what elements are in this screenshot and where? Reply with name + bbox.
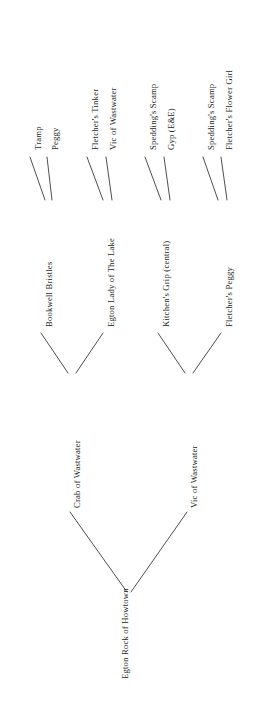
node-gen4-4[interactable]: Spedding's Scamp — [149, 84, 158, 150]
edge-gen4-gen3-4 — [145, 157, 161, 200]
node-gen4-5[interactable]: Gyp (E&E) — [167, 108, 176, 150]
edge-gen4-gen3-3 — [106, 157, 112, 200]
edges-gen3-to-gen2 — [41, 333, 221, 373]
node-gen4-1[interactable]: Peggy — [51, 127, 60, 150]
edge-gen4-gen3-6 — [203, 157, 218, 200]
node-gen3-1[interactable]: Egton Lady of The Lake — [107, 238, 116, 327]
edge-gen3-gen2-0 — [41, 333, 68, 373]
edges-gen4-to-gen3 — [30, 157, 227, 200]
node-gen2-1[interactable]: Vic of Wastwater — [190, 445, 199, 508]
edge-gen3-gen2-1 — [76, 333, 103, 373]
node-gen4-2[interactable]: Fletcher's Tinker — [91, 89, 100, 150]
edge-gen2-root-1 — [131, 512, 187, 592]
edge-gen4-gen3-1 — [47, 157, 52, 200]
node-gen2-0[interactable]: Crab of Wastwater — [73, 440, 82, 508]
edge-gen4-gen3-7 — [221, 157, 227, 200]
edges-gen2-to-root — [70, 512, 187, 592]
node-gen4-0[interactable]: Tramp — [34, 126, 43, 150]
edge-gen4-gen3-5 — [164, 157, 170, 200]
edge-gen3-gen2-2 — [158, 333, 185, 373]
node-gen4-7[interactable]: Fletcher's Flower Girl — [225, 70, 234, 150]
node-gen3-2[interactable]: Kitchen's Grip (central) — [162, 241, 171, 327]
node-gen3-3[interactable]: Fletcher's Peggy — [225, 267, 234, 327]
pedigree-diagram: Tramp Peggy Fletcher's Tinker Vic of Was… — [0, 0, 263, 720]
node-gen4-6[interactable]: Spedding's Scamp — [207, 84, 216, 150]
edge-gen3-gen2-3 — [193, 333, 221, 373]
edge-gen2-root-0 — [70, 512, 127, 592]
node-gen3-0[interactable]: Bookwell Bristles — [45, 262, 54, 327]
node-root[interactable]: Egton Rock of Howtown — [121, 588, 130, 679]
node-gen4-3[interactable]: Vic of Wastwater — [109, 87, 118, 150]
edge-gen4-gen3-0 — [30, 157, 45, 200]
edge-gen4-gen3-2 — [87, 157, 103, 200]
